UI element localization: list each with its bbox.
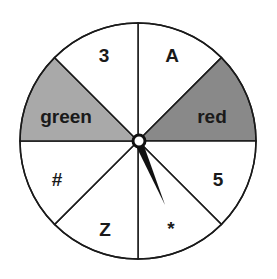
label-z: Z <box>99 219 111 240</box>
label-hash: # <box>52 169 63 190</box>
spinner: A red 5 * Z # green 3 <box>0 0 277 279</box>
label-a: A <box>165 45 179 66</box>
label-green: green <box>40 106 92 127</box>
label-red: red <box>197 106 227 127</box>
label-3: 3 <box>99 45 110 66</box>
hub <box>133 135 145 147</box>
label-star: * <box>167 218 175 239</box>
label-5: 5 <box>213 169 224 190</box>
